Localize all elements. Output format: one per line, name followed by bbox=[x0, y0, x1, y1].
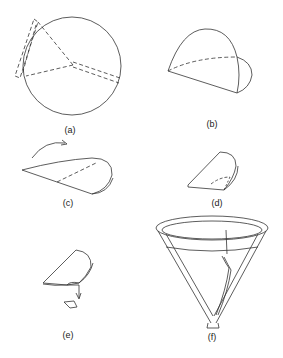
filter-folding-diagram bbox=[0, 0, 283, 358]
label-e: (e) bbox=[63, 331, 74, 340]
label-d: (d) bbox=[212, 199, 223, 208]
panel-f-figure bbox=[156, 216, 268, 328]
panel-e-figure bbox=[43, 250, 93, 308]
panel-d-figure bbox=[188, 152, 238, 190]
label-a: (a) bbox=[65, 126, 76, 135]
label-f: (f) bbox=[208, 333, 217, 342]
panel-c-figure bbox=[22, 140, 113, 194]
panel-b-figure bbox=[168, 29, 252, 93]
label-b: (b) bbox=[207, 120, 218, 129]
panel-a-figure bbox=[15, 17, 121, 115]
label-c: (c) bbox=[63, 199, 74, 208]
